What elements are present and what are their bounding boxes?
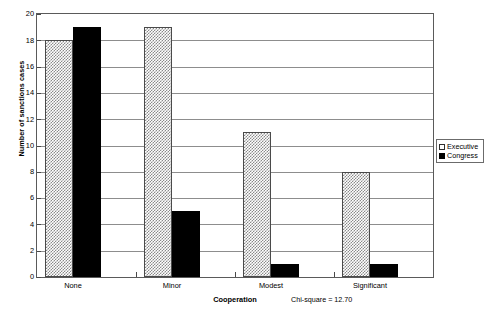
- chart-legend: ExecutiveCongress: [436, 139, 484, 163]
- y-axis-tick-label: 12: [18, 116, 34, 123]
- legend-swatch-congress-icon: [439, 153, 445, 159]
- y-axis-tick-mark: [37, 67, 41, 68]
- y-axis-tick-label: 16: [18, 63, 34, 70]
- bar-congress-none: [73, 27, 101, 277]
- y-axis-tick-label: 18: [18, 37, 34, 44]
- y-axis-tick-mark: [37, 172, 41, 173]
- y-axis-tick-label: 6: [18, 194, 34, 201]
- x-axis-title: Cooperation: [175, 295, 295, 304]
- bar-executive-modest: [243, 132, 271, 277]
- y-axis-tick-mark: [37, 14, 41, 15]
- y-axis-tick-label: 20: [18, 10, 34, 17]
- legend-label: Congress: [447, 152, 478, 160]
- bar-executive-minor: [144, 27, 172, 277]
- y-axis-tick-mark: [37, 146, 41, 147]
- y-axis-tick-mark: [37, 224, 41, 225]
- chi-square-annotation: Chi-square = 12.70: [291, 295, 352, 304]
- x-axis-category-divider: [136, 272, 137, 277]
- y-axis-tick-label: 10: [18, 142, 34, 149]
- y-axis-tick-labels: 02468101214161820: [14, 0, 34, 314]
- x-axis-category-label: None: [33, 282, 113, 290]
- bar-executive-significant: [342, 172, 370, 277]
- y-axis-tick-label: 0: [18, 273, 34, 280]
- bar-congress-significant: [370, 264, 398, 277]
- y-axis-tick-label: 14: [18, 89, 34, 96]
- bar-executive-none: [45, 40, 73, 277]
- y-axis-tick-label: 2: [18, 247, 34, 254]
- plot-area: [36, 13, 434, 278]
- legend-swatch-executive-icon: [439, 144, 445, 150]
- legend-item-congress: Congress: [439, 151, 480, 160]
- legend-item-executive: Executive: [439, 142, 480, 151]
- y-axis-tick-label: 8: [18, 168, 34, 175]
- bar-congress-modest: [271, 264, 299, 277]
- y-axis-tick-mark: [37, 277, 41, 278]
- y-axis-tick-mark: [37, 93, 41, 94]
- y-axis-tick-mark: [37, 40, 41, 41]
- y-axis-tick-label: 4: [18, 221, 34, 228]
- bar-congress-minor: [172, 211, 200, 277]
- x-axis-category-divider: [235, 272, 236, 277]
- y-axis-tick-mark: [37, 119, 41, 120]
- bar-chart: Number of sanctions cases 02468101214161…: [0, 0, 487, 314]
- x-axis-category-label: Significant: [330, 282, 410, 290]
- y-axis-tick-mark: [37, 198, 41, 199]
- x-axis-category-label: Minor: [132, 282, 212, 290]
- legend-label: Executive: [447, 143, 478, 151]
- x-axis-category-divider: [334, 272, 335, 277]
- x-axis-category-label: Modest: [231, 282, 311, 290]
- y-axis-tick-mark: [37, 251, 41, 252]
